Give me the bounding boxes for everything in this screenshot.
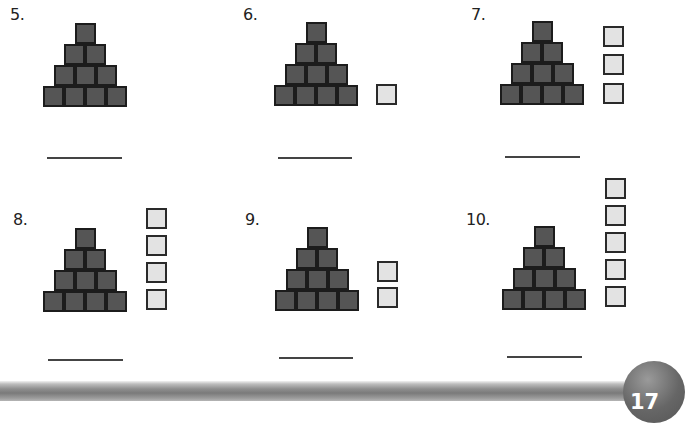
pyramid-block [338, 290, 359, 311]
pyramid-block [532, 63, 553, 84]
extra-block [376, 84, 397, 105]
pyramid-block [274, 85, 295, 106]
pyramid-block [285, 64, 306, 85]
pyramid-block [296, 290, 317, 311]
pyramid-block [295, 43, 316, 64]
pyramid-block [523, 247, 544, 268]
pyramid-block [502, 289, 523, 310]
pyramid-block [64, 44, 85, 65]
pyramid-block [316, 85, 337, 106]
pyramid-block [317, 290, 338, 311]
pyramid-block [337, 85, 358, 106]
extra-block [146, 289, 167, 310]
pyramid-block [500, 84, 521, 105]
answer-line[interactable] [48, 359, 123, 361]
pyramid-block [64, 249, 85, 270]
pyramid-block [306, 22, 327, 43]
pyramid-block [275, 290, 296, 311]
problem-number: 10. [466, 210, 490, 229]
pyramid-block [96, 65, 117, 86]
pyramid-block [96, 270, 117, 291]
pyramid-block [534, 268, 555, 289]
pyramid-block [75, 270, 96, 291]
pyramid-block [43, 86, 64, 107]
extra-block [146, 235, 167, 256]
problem-number: 5. [10, 5, 24, 24]
pyramid-block [106, 291, 127, 312]
problem-number: 9. [245, 210, 259, 229]
extra-block [605, 232, 626, 253]
page-number: 17 [630, 390, 659, 414]
pyramid-block [542, 42, 563, 63]
extra-block [146, 208, 167, 229]
pyramid-block [565, 289, 586, 310]
pyramid-block [64, 86, 85, 107]
pyramid-block [85, 86, 106, 107]
pyramid-block [513, 268, 534, 289]
extra-block [377, 287, 398, 308]
pyramid-block [542, 84, 563, 105]
problem-number: 6. [243, 5, 257, 24]
extra-block [605, 178, 626, 199]
pyramid-block [521, 84, 542, 105]
extra-block [605, 259, 626, 280]
extra-block [603, 54, 624, 75]
problem-number: 7. [471, 5, 485, 24]
pyramid-block [555, 268, 576, 289]
pyramid-block [85, 44, 106, 65]
answer-line[interactable] [47, 157, 122, 159]
pyramid-block [54, 270, 75, 291]
pyramid-block [553, 63, 574, 84]
pyramid-block [307, 269, 328, 290]
pyramid-block [306, 64, 327, 85]
pyramid-block [532, 21, 553, 42]
extra-block [146, 262, 167, 283]
pyramid-block [521, 42, 542, 63]
pyramid-block [328, 269, 349, 290]
extra-block [605, 286, 626, 307]
pyramid-block [85, 249, 106, 270]
pyramid-block [307, 227, 328, 248]
extra-block [603, 26, 624, 47]
extra-block [603, 83, 624, 104]
pyramid-block [54, 65, 75, 86]
pyramid-block [544, 247, 565, 268]
pyramid-block [85, 291, 106, 312]
pyramid-block [327, 64, 348, 85]
pyramid-block [523, 289, 544, 310]
answer-line[interactable] [507, 356, 582, 358]
pyramid-block [544, 289, 565, 310]
pyramid-block [317, 248, 338, 269]
pyramid-block [64, 291, 85, 312]
pyramid-block [316, 43, 337, 64]
pyramid-block [511, 63, 532, 84]
extra-block [605, 205, 626, 226]
page-number-badge: 17 [623, 361, 685, 423]
pyramid-block [43, 291, 64, 312]
pyramid-block [563, 84, 584, 105]
pyramid-block [106, 86, 127, 107]
pyramid-block [534, 226, 555, 247]
pyramid-block [75, 228, 96, 249]
pyramid-block [75, 23, 96, 44]
pyramid-block [295, 85, 316, 106]
pyramid-block [296, 248, 317, 269]
answer-line[interactable] [278, 157, 352, 159]
answer-line[interactable] [505, 156, 580, 158]
problem-number: 8. [13, 210, 27, 229]
answer-line[interactable] [279, 357, 353, 359]
pyramid-block [286, 269, 307, 290]
extra-block [377, 261, 398, 282]
footer-bar [0, 381, 640, 401]
pyramid-block [75, 65, 96, 86]
